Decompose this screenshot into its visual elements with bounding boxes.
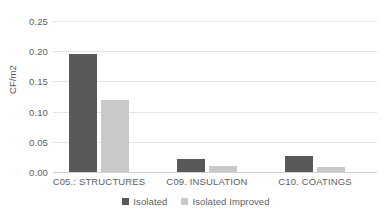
- y-tick-label: 0.15: [29, 76, 48, 87]
- x-axis-label: C09. INSULATION: [166, 176, 247, 187]
- x-axis-label: C10. COATINGS: [278, 176, 352, 187]
- bar: [317, 167, 345, 172]
- gridline: [53, 81, 377, 82]
- bar: [285, 156, 313, 172]
- legend: IsolatedIsolated Improved: [0, 196, 392, 207]
- bar: [69, 54, 97, 172]
- axis-baseline: [53, 172, 377, 173]
- y-tick-label: 0.10: [29, 106, 48, 117]
- legend-swatch-icon: [181, 198, 188, 205]
- legend-swatch-icon: [122, 198, 129, 205]
- x-axis-label: C05.: STRUCTURES: [53, 176, 146, 187]
- y-axis-title: CF/m2: [7, 44, 18, 116]
- legend-item[interactable]: Isolated Improved: [181, 196, 269, 207]
- y-tick-label: 0.05: [29, 136, 48, 147]
- bar: [177, 159, 205, 172]
- plot-area: 0.000.050.100.150.200.25: [53, 21, 377, 172]
- legend-label: Isolated: [133, 196, 167, 207]
- legend-item[interactable]: Isolated: [122, 196, 167, 207]
- y-tick-label: 0.00: [29, 167, 48, 178]
- bar: [209, 166, 237, 172]
- bar: [101, 100, 129, 172]
- gridline: [53, 21, 377, 22]
- legend-label: Isolated Improved: [192, 196, 269, 207]
- y-tick-label: 0.20: [29, 46, 48, 57]
- y-tick-label: 0.25: [29, 16, 48, 27]
- gridline: [53, 51, 377, 52]
- bar-chart: CF/m2 0.000.050.100.150.200.25 C05.: STR…: [0, 0, 392, 222]
